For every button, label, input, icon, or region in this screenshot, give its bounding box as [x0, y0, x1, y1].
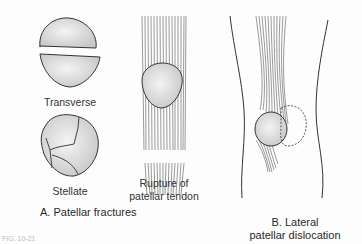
label-stellate: Stellate: [38, 185, 102, 197]
quadriceps-fibers: [256, 16, 288, 172]
label-transverse: Transverse: [38, 96, 102, 108]
caption-patellar-fractures: A. Patellar fractures: [40, 206, 180, 219]
caption-lateral-line1: B. Lateral: [240, 216, 350, 229]
label-rupture-line1: Rupture of: [124, 177, 204, 189]
label-rupture-line2: patellar tendon: [124, 190, 204, 202]
transverse-fracture-icon: [40, 18, 100, 87]
lateral-dislocation-icon: [230, 16, 328, 198]
figure-number: FIG. 10-21: [2, 235, 35, 242]
caption-lateral-line2: patellar dislocation: [240, 229, 350, 242]
stellate-fracture-icon: [41, 115, 98, 176]
dislocated-patella: [255, 112, 287, 146]
tendon-rupture-icon: [138, 16, 192, 195]
